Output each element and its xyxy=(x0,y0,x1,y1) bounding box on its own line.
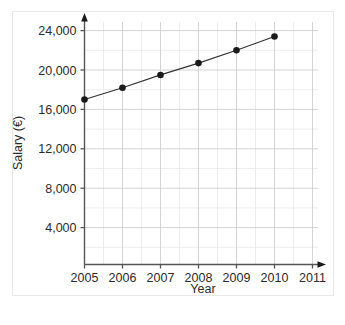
data-point-marker xyxy=(157,72,164,79)
data-point-marker xyxy=(81,96,88,103)
x-tick-label: 2009 xyxy=(223,271,251,285)
axes xyxy=(81,13,326,268)
y-tick-label: 8,000 xyxy=(45,182,76,196)
x-tick-label: 2005 xyxy=(71,271,99,285)
chart-figure: 4,0008,00012,00016,00020,00024,000 20052… xyxy=(0,0,345,325)
x-tick-label: 2010 xyxy=(261,271,289,285)
y-axis-title: Salary (€) xyxy=(11,116,25,170)
y-axis-arrow-icon xyxy=(81,13,88,22)
data-point-marker xyxy=(195,60,202,67)
y-axis-tick-labels: 4,0008,00012,00016,00020,00024,000 xyxy=(38,24,76,235)
x-axis-arrow-icon xyxy=(318,261,327,268)
data-point-marker xyxy=(233,47,240,54)
y-tick-label: 12,000 xyxy=(38,142,76,156)
salary-vs-year-line-chart: 4,0008,00012,00016,00020,00024,000 20052… xyxy=(0,0,345,325)
data-point-marker xyxy=(119,84,126,91)
x-tick-label: 2006 xyxy=(109,271,137,285)
x-axis-title: Year xyxy=(190,282,215,296)
x-tick-label: 2007 xyxy=(147,271,175,285)
data-point-marker xyxy=(271,33,278,40)
y-tick-label: 24,000 xyxy=(38,24,76,38)
x-tick-label: 2011 xyxy=(299,271,326,285)
y-tick-label: 20,000 xyxy=(38,64,76,78)
minor-gridlines xyxy=(85,22,319,265)
y-tick-label: 4,000 xyxy=(45,221,76,235)
major-gridlines xyxy=(85,22,319,265)
y-tick-label: 16,000 xyxy=(38,103,76,117)
